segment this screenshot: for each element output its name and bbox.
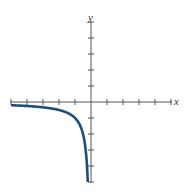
function-graph: x y xyxy=(0,0,187,194)
x-axis-label: x xyxy=(173,95,179,107)
function-curve xyxy=(11,105,88,182)
y-axis-label: y xyxy=(87,11,93,23)
axes xyxy=(10,21,172,183)
